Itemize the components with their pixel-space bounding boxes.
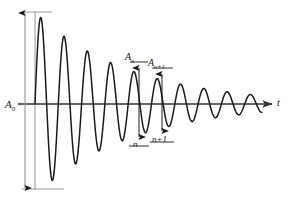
label-amplitude-An-plus-1: An+1 xyxy=(148,58,164,70)
label-index-n-plus-1: n+1 xyxy=(152,135,167,144)
label-amplitude-An: An xyxy=(125,52,134,64)
label-index-n: n xyxy=(133,140,138,149)
label-axis-t: t xyxy=(277,98,280,108)
damped-oscillation-curve xyxy=(35,17,262,180)
damped-oscillation-figure: A0 An An+1 n n+1 t xyxy=(0,0,292,203)
plot-canvas xyxy=(0,0,292,203)
label-amplitude-A0: A0 xyxy=(5,99,15,113)
